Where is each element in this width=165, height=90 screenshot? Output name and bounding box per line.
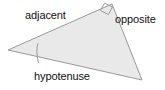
side-label-opposite: opposite <box>115 14 156 25</box>
trigonometry-triangle-figure: adjacent opposite hypotenuse <box>0 0 165 90</box>
side-label-adjacent: adjacent <box>25 10 66 21</box>
side-label-hypotenuse: hypotenuse <box>34 71 90 82</box>
